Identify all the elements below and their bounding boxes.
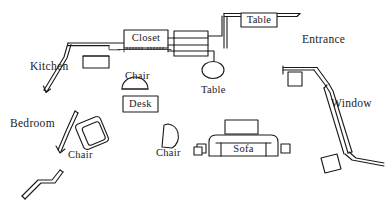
room-label-window: Window xyxy=(331,98,372,110)
floor-plan-canvas xyxy=(0,0,386,211)
furniture-label-chair-desk: Chair xyxy=(125,71,150,82)
small-square-center xyxy=(194,147,202,155)
table-back-sofa xyxy=(225,120,258,134)
room-label-bedroom: Bedroom xyxy=(10,118,55,130)
chair-center-shape xyxy=(162,124,178,148)
wall-shelf-drop xyxy=(208,51,214,62)
furniture-label-table-top: Table xyxy=(241,15,277,26)
furniture-label-chair-bedroom: Chair xyxy=(68,150,93,161)
furniture-label-closet: Closet xyxy=(124,33,168,44)
corner-square xyxy=(321,154,341,173)
wall-shelf-connector xyxy=(208,16,222,36)
furniture-label-sofa: Sofa xyxy=(209,144,278,155)
wall-window xyxy=(324,84,352,154)
side-table-right xyxy=(281,144,290,153)
room-label-kitchen: Kitchen xyxy=(30,61,69,73)
counter-left xyxy=(83,56,109,68)
room-label-entrance: Entrance xyxy=(302,34,345,46)
entry-square xyxy=(288,72,302,86)
wall-lower-right xyxy=(345,152,384,166)
furniture-label-chair-center: Chair xyxy=(156,148,181,159)
wall-lower-left xyxy=(22,170,63,199)
furniture-label-table-round: Table xyxy=(201,85,226,96)
chair-bedroom-shape xyxy=(76,117,109,150)
wall-bedroom-door xyxy=(56,111,78,153)
furniture-label-desk: Desk xyxy=(123,99,158,110)
floor-plan-diagram: Kitchen Bedroom Entrance Window Closet T… xyxy=(0,0,386,211)
shelf-unit xyxy=(168,31,208,56)
table-round-shape xyxy=(202,62,224,79)
